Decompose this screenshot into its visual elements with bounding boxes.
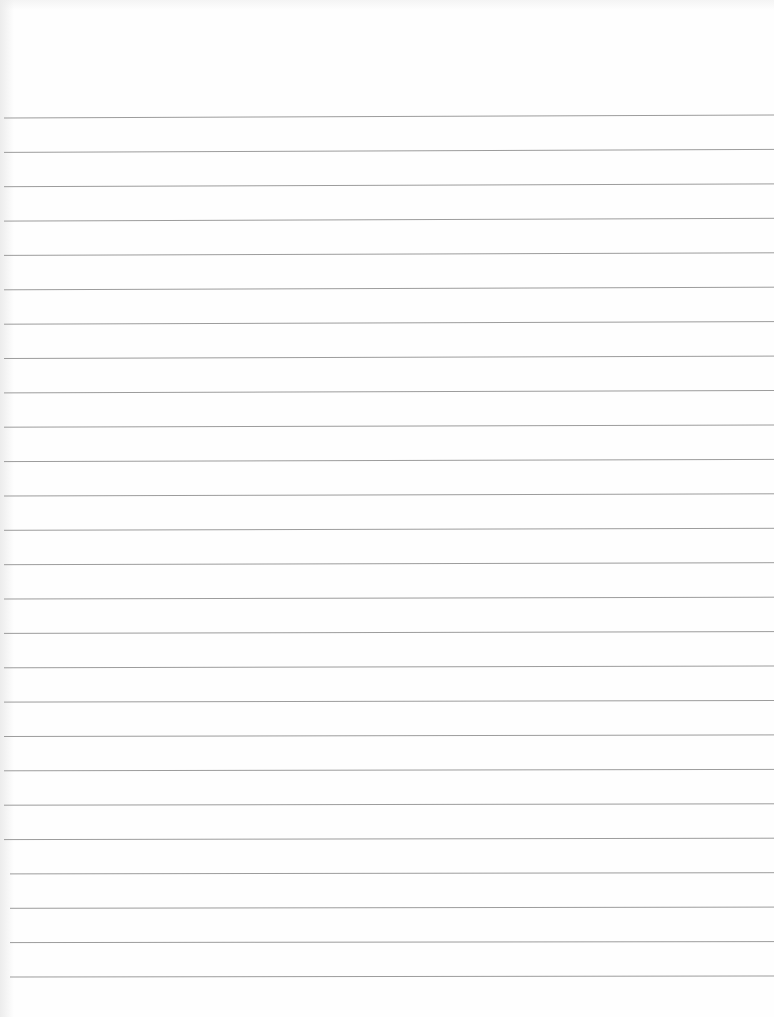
lined-paper-sheet (0, 0, 774, 1017)
ruled-line (4, 115, 774, 118)
ruled-line (4, 563, 774, 565)
ruled-line (4, 701, 774, 703)
ruled-line (10, 873, 774, 874)
ruled-line (4, 391, 774, 393)
ruled-line (10, 907, 774, 908)
ruled-line (4, 769, 774, 770)
ruled-line (4, 735, 774, 737)
ruled-line (4, 184, 774, 187)
ruled-line (4, 356, 774, 358)
ruled-line (10, 942, 774, 943)
ruled-line (10, 976, 774, 977)
ruled-line (4, 666, 774, 668)
ruled-line (4, 494, 774, 496)
ruled-line (4, 218, 774, 221)
ruled-line (4, 322, 774, 325)
ruled-line (4, 425, 774, 427)
ruled-line (4, 838, 774, 839)
ruled-line (4, 287, 774, 290)
ruled-lines (0, 0, 774, 1017)
ruled-line (4, 632, 774, 634)
ruled-line (4, 253, 774, 256)
ruled-line (4, 149, 774, 152)
ruled-line (4, 528, 774, 530)
ruled-line (4, 459, 774, 461)
ruled-line (4, 597, 774, 599)
ruled-line (4, 804, 774, 805)
